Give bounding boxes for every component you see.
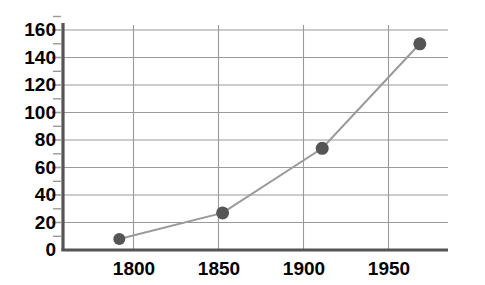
data-point-1908[interactable]	[316, 142, 329, 155]
ytick-label-80: 80	[0, 130, 56, 149]
xtick-label-1950: 1950	[349, 259, 429, 278]
ytick-label-160: 160	[0, 20, 56, 39]
vertical-gridlines	[134, 25, 389, 250]
series-line	[119, 44, 420, 239]
line-chart: 160 140 120 100 80 60 40 20 0 1800 1850 …	[0, 0, 485, 285]
horizontal-gridlines	[63, 30, 448, 223]
ytick-label-60: 60	[0, 158, 56, 177]
ytick-label-0: 0	[0, 240, 56, 259]
ytick-label-40: 40	[0, 185, 56, 204]
ytick-label-20: 20	[0, 213, 56, 232]
ytick-label-120: 120	[0, 75, 56, 94]
data-point-1855[interactable]	[216, 206, 229, 219]
series-markers	[113, 37, 426, 245]
xtick-label-1850: 1850	[179, 259, 259, 278]
ytick-label-100: 100	[0, 103, 56, 122]
xtick-label-1900: 1900	[264, 259, 344, 278]
data-point-1960[interactable]	[413, 37, 426, 50]
xtick-label-1800: 1800	[94, 259, 174, 278]
ytick-label-140: 140	[0, 48, 56, 67]
data-point-1800[interactable]	[113, 233, 125, 245]
plot-area	[0, 0, 485, 285]
